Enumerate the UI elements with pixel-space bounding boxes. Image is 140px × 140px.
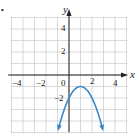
graph: • x y −4 −2 0 2 4 4 2 −2 (0, 0, 140, 140)
x-tick-label: 0 (61, 78, 66, 88)
x-axis-label: x (129, 68, 135, 80)
x-tick-label: 2 (90, 76, 95, 86)
problem-bullet: • (1, 5, 4, 14)
x-tick-label: 4 (113, 78, 118, 88)
x-tick-label: −2 (36, 78, 46, 88)
x-axis (8, 73, 128, 78)
x-axis-arrow-icon (121, 73, 128, 78)
y-axis-label: y (62, 3, 68, 15)
y-tick-label: 4 (61, 23, 66, 33)
y-tick-label: 2 (61, 46, 66, 56)
x-tick-label: −4 (12, 78, 22, 88)
y-axis (67, 9, 72, 132)
y-tick-label: −2 (54, 93, 64, 103)
